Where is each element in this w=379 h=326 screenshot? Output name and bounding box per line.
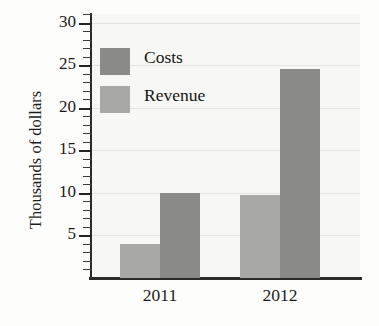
y-tick-minor xyxy=(83,269,92,270)
y-tick-minor xyxy=(83,210,92,211)
x-tick-label: 2012 xyxy=(235,285,325,306)
y-tick-minor xyxy=(83,14,92,15)
y-axis-tick-labels: 51015202530 xyxy=(38,0,76,326)
bar-2011-revenue xyxy=(120,244,160,278)
y-tick-major xyxy=(79,23,92,25)
bar-2012-costs xyxy=(280,69,320,278)
y-tick-minor xyxy=(83,125,92,126)
y-tick-label: 30 xyxy=(42,12,76,32)
y-tick-minor xyxy=(83,99,92,100)
y-tick-major xyxy=(79,193,92,195)
y-tick-minor xyxy=(83,184,92,185)
y-tick-minor xyxy=(83,82,92,83)
y-tick-minor xyxy=(83,252,92,253)
y-tick-minor xyxy=(83,133,92,134)
bar-2011-costs xyxy=(160,193,200,278)
y-tick-minor xyxy=(83,176,92,177)
y-tick-major xyxy=(79,150,92,152)
y-tick-minor xyxy=(83,244,92,245)
x-tick-label: 2011 xyxy=(115,285,205,306)
bar-chart-figure: Thousands of dollars 51015202530 2011201… xyxy=(0,0,379,326)
bar-2012-revenue xyxy=(240,195,280,278)
y-tick-minor xyxy=(83,57,92,58)
y-tick-minor xyxy=(83,261,92,262)
y-tick-minor xyxy=(83,142,92,143)
y-tick-minor xyxy=(83,167,92,168)
y-tick-major xyxy=(79,108,92,110)
y-tick-minor xyxy=(83,74,92,75)
y-tick-label: 20 xyxy=(42,97,76,117)
bars-layer xyxy=(92,14,360,278)
legend-label-costs: Costs xyxy=(144,47,183,68)
y-tick-minor xyxy=(83,48,92,49)
legend-label-revenue: Revenue xyxy=(144,85,205,106)
y-tick-label: 25 xyxy=(42,54,76,74)
y-tick-major xyxy=(79,65,92,67)
y-tick-minor xyxy=(83,91,92,92)
y-tick-label: 15 xyxy=(42,139,76,159)
y-tick-minor xyxy=(83,40,92,41)
y-tick-minor xyxy=(83,227,92,228)
y-tick-minor xyxy=(83,201,92,202)
y-tick-minor xyxy=(83,116,92,117)
y-tick-label: 10 xyxy=(42,182,76,202)
y-tick-label: 5 xyxy=(42,224,76,244)
y-tick-minor xyxy=(83,31,92,32)
legend-swatch-costs-icon xyxy=(100,48,130,75)
legend-swatch-revenue-icon xyxy=(100,86,130,113)
y-tick-minor xyxy=(83,218,92,219)
y-tick-major xyxy=(79,235,92,237)
y-tick-minor xyxy=(83,159,92,160)
